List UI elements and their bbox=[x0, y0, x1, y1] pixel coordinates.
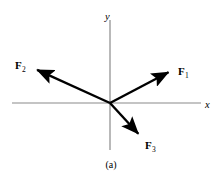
vector-label-f2: F2 bbox=[15, 60, 25, 71]
y-axis-label: y bbox=[105, 12, 110, 23]
vector-arrow-f1 bbox=[110, 72, 169, 103]
figure-caption: (a) bbox=[99, 160, 123, 170]
vector-arrow-f2 bbox=[37, 70, 110, 103]
vector-label-f2-subscript: 2 bbox=[22, 65, 26, 74]
vector-label-f2-symbol: F bbox=[15, 59, 22, 71]
vector-label-f1: F1 bbox=[178, 66, 188, 77]
vector-label-f1-symbol: F bbox=[178, 65, 185, 77]
x-axis-label: x bbox=[205, 100, 210, 111]
figure-container: y x F1 F2 F3 (a) bbox=[0, 0, 222, 182]
vector-label-f1-subscript: 1 bbox=[185, 71, 189, 80]
vector-label-f3: F3 bbox=[145, 140, 155, 151]
vector-label-f3-subscript: 3 bbox=[152, 145, 156, 154]
vector-label-f3-symbol: F bbox=[145, 139, 152, 151]
vector-diagram bbox=[0, 0, 222, 182]
vector-arrow-f3 bbox=[110, 103, 138, 134]
